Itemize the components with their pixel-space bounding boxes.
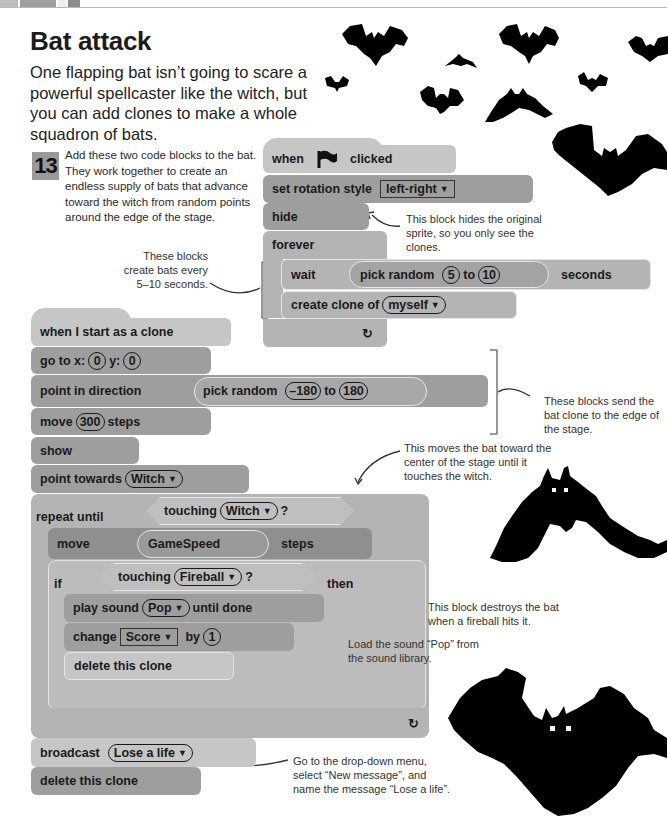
broadcast-block[interactable]: broadcast Lose a life▼ xyxy=(31,738,256,767)
annotation-toward: This moves the bat toward the center of … xyxy=(404,441,564,483)
bat-icon xyxy=(552,122,667,197)
step-number-badge: 13 xyxy=(32,152,59,180)
dropdown-arrow-icon: ▼ xyxy=(168,474,177,484)
point-towards-block[interactable]: point towards Witch▼ xyxy=(31,465,249,493)
bat-icon xyxy=(420,84,464,116)
dropdown-arrow-icon: ▼ xyxy=(440,184,449,194)
steps-input[interactable]: 300 xyxy=(76,413,105,431)
play-sound-block[interactable]: play sound Pop▼ until done xyxy=(64,594,324,622)
y-input[interactable]: 0 xyxy=(123,352,141,370)
bat-icon xyxy=(340,22,410,72)
x-input[interactable]: 0 xyxy=(88,352,106,370)
touching-witch-condition[interactable]: touching Witch▼ ? xyxy=(146,497,354,525)
go-to-xy-block[interactable]: go to x: 0 y: 0 xyxy=(31,347,211,374)
move-gamespeed-block[interactable]: move GameSpeed steps xyxy=(48,528,372,559)
then-label: then xyxy=(327,577,353,591)
wait-block[interactable]: wait pick random 5 to 10 seconds xyxy=(281,259,651,290)
random-min-input[interactable]: –180 xyxy=(285,382,321,400)
create-clone-block[interactable]: create clone of myself▼ xyxy=(281,291,517,319)
change-amount-input[interactable]: 1 xyxy=(203,628,221,646)
annotation-edge: These blocks send the bat clone to the e… xyxy=(544,394,667,436)
dropdown-arrow-icon: ▼ xyxy=(227,572,236,582)
variable-dropdown[interactable]: Score▼ xyxy=(120,628,179,646)
change-score-block[interactable]: change Score▼ by 1 xyxy=(64,623,294,651)
annotation-destroy: This block destroys the bat when a fireb… xyxy=(428,600,578,628)
if-label: if xyxy=(54,577,62,591)
move-steps-block[interactable]: move 300 steps xyxy=(31,408,211,435)
bat-icon xyxy=(448,668,667,816)
set-rotation-style-block[interactable]: set rotation style left-right▼ xyxy=(263,175,533,203)
bat-icon xyxy=(485,86,553,124)
step-instructions: Add these two code blocks to the bat. Th… xyxy=(65,148,265,226)
hide-block[interactable]: hide xyxy=(263,203,369,230)
bat-icon xyxy=(445,52,477,70)
show-block[interactable]: show xyxy=(31,437,139,464)
random-max-input[interactable]: 180 xyxy=(339,382,368,400)
touching-target-dropdown[interactable]: Fireball▼ xyxy=(174,568,242,586)
dropdown-arrow-icon: ▼ xyxy=(164,632,173,642)
page-header-strip xyxy=(0,0,667,8)
delete-clone-block[interactable]: delete this clone xyxy=(31,767,201,795)
random-max-input[interactable]: 10 xyxy=(478,266,500,284)
sound-dropdown[interactable]: Pop▼ xyxy=(142,599,190,617)
pick-random-reporter[interactable]: pick random –180 to 180 xyxy=(194,377,427,406)
random-min-input[interactable]: 5 xyxy=(442,266,460,284)
annotation-every: These blocks create bats every 5–10 seco… xyxy=(112,249,208,291)
annotation-pop: Load the sound “Pop” from the sound libr… xyxy=(348,637,483,665)
pick-random-reporter[interactable]: pick random 5 to 10 xyxy=(349,261,549,288)
when-start-as-clone-block[interactable]: when I start as a clone xyxy=(31,318,231,346)
forever-block-end: ↻ xyxy=(263,319,387,347)
touching-fireball-condition[interactable]: touching Fireball▼ ? xyxy=(100,563,316,591)
message-dropdown[interactable]: Lose a life▼ xyxy=(108,744,193,762)
page-title: Bat attack xyxy=(30,26,151,57)
repeat-until-end: ↻ xyxy=(31,708,429,738)
clone-target-dropdown[interactable]: myself▼ xyxy=(382,296,446,314)
green-flag-icon xyxy=(316,150,338,168)
annotation-broadcast: Go to the drop-down menu, select “New me… xyxy=(293,754,453,796)
touching-target-dropdown[interactable]: Witch▼ xyxy=(220,502,278,520)
loop-arrow-icon: ↻ xyxy=(408,716,419,731)
intro-text: One flapping bat isn’t going to scare a … xyxy=(30,62,320,144)
gamespeed-variable[interactable]: GameSpeed xyxy=(137,530,269,558)
forever-block[interactable]: forever xyxy=(263,231,387,259)
dropdown-arrow-icon: ▼ xyxy=(431,300,440,310)
when-flag-clicked-block[interactable]: when clicked xyxy=(263,145,456,173)
dropdown-arrow-icon: ▼ xyxy=(178,748,187,758)
bat-icon xyxy=(325,74,349,92)
dropdown-arrow-icon: ▼ xyxy=(263,506,272,516)
bat-icon xyxy=(578,72,608,92)
point-target-dropdown[interactable]: Witch▼ xyxy=(125,470,183,488)
annotation-hide: This block hides the original sprite, so… xyxy=(406,212,566,254)
delete-clone-block[interactable]: delete this clone xyxy=(64,652,234,680)
rotation-style-dropdown[interactable]: left-right▼ xyxy=(380,180,455,198)
repeat-until-label: repeat until xyxy=(36,510,103,524)
bat-icon xyxy=(497,22,561,68)
point-in-direction-block[interactable]: point in direction pick random –180 to 1… xyxy=(31,375,488,407)
dropdown-arrow-icon: ▼ xyxy=(175,603,184,613)
loop-arrow-icon: ↻ xyxy=(362,326,373,341)
bat-icon xyxy=(628,34,668,64)
